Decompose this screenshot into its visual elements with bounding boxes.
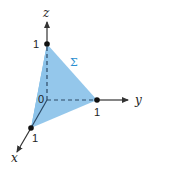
tetrahedron-diagram: z y x 1 0 1 1 Σ [0,0,172,175]
x-axis [17,128,31,152]
y-intercept-label: 1 [94,106,100,118]
z-intercept-label: 1 [33,38,39,50]
z-axis-label: z [42,6,50,20]
vertex-x1 [28,125,34,131]
vertex-y1 [94,97,100,103]
surface-sigma [31,44,97,128]
y-axis-label: y [134,93,142,107]
x-intercept-label: 1 [32,132,38,144]
x-axis-label: x [11,151,18,165]
vertex-z1 [44,41,50,47]
surface-sigma-label: Σ [70,56,78,69]
origin-label: 0 [38,93,44,105]
